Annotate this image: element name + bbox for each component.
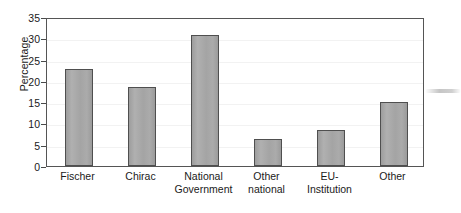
x-axis-category-labels: FischerChiracNational GovernmentOther na…	[46, 170, 424, 210]
y-axis-tick-mark	[41, 167, 46, 168]
y-axis-tick-label: 5	[20, 141, 40, 151]
y-axis-tick-label: 10	[20, 119, 40, 129]
gridline	[47, 147, 423, 148]
x-axis-category-label: EU- Institution	[298, 170, 361, 195]
bar	[254, 139, 282, 166]
plot-area	[46, 18, 424, 167]
bar	[65, 69, 93, 166]
x-axis-category-label: Other national	[235, 170, 298, 195]
y-axis-tick-labels: 05101520253035	[20, 0, 40, 213]
gridline	[47, 104, 423, 105]
y-axis-tick-label: 20	[20, 77, 40, 87]
y-axis-tick-label: 35	[20, 13, 40, 23]
y-axis-tick-label: 0	[20, 162, 40, 172]
bar	[191, 35, 219, 166]
scan-smudge-artifact	[425, 89, 461, 93]
x-axis-category-label: Chirac	[109, 170, 172, 183]
bar	[317, 130, 345, 166]
gridline	[47, 62, 423, 63]
x-axis-category-label: Fischer	[46, 170, 109, 183]
gridline	[47, 83, 423, 84]
bar	[380, 102, 408, 166]
y-axis-tick-label: 25	[20, 56, 40, 66]
y-axis-tick-label: 15	[20, 98, 40, 108]
gridline	[47, 40, 423, 41]
x-axis-category-label: National Government	[172, 170, 235, 195]
x-axis-category-label: Other	[361, 170, 424, 183]
bar	[128, 87, 156, 166]
gridline	[47, 125, 423, 126]
y-axis-tick-label: 30	[20, 34, 40, 44]
